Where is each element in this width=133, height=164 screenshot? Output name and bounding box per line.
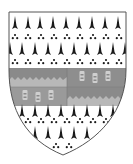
shield-svg — [0, 0, 133, 164]
shield-field — [0, 0, 133, 164]
coat-of-arms — [0, 0, 133, 164]
